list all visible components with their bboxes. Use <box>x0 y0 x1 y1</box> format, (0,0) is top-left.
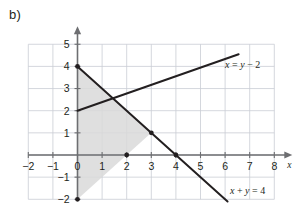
x-tick-label: 2 <box>124 160 130 172</box>
data-point-marker <box>75 64 80 69</box>
y-tick-label: −2 <box>58 193 70 205</box>
data-point-marker <box>149 130 154 135</box>
data-point-marker <box>124 153 129 158</box>
y-tick-labels: −2−112345 <box>58 38 70 205</box>
x-tick-labels: −2−1012345678 <box>22 160 277 172</box>
line-equation-label: x = y − 2 <box>224 59 260 70</box>
x-tick-label: 5 <box>198 160 204 172</box>
y-tick-label: 4 <box>64 60 70 72</box>
part-label: b) <box>9 7 21 22</box>
y-tick-label: 1 <box>64 127 70 139</box>
plotted-line <box>78 54 239 110</box>
x-tick-label: 7 <box>247 160 253 172</box>
data-point-marker <box>75 197 80 202</box>
y-tick-label: 5 <box>64 38 70 50</box>
y-tick-label: 3 <box>64 82 70 94</box>
x-tick-label: 3 <box>148 160 154 172</box>
x-axis-arrow <box>284 151 292 158</box>
x-tick-label: −1 <box>47 160 59 172</box>
x-axis-label: x <box>286 160 292 170</box>
y-axis-arrow <box>74 26 81 34</box>
line-equation-label: x + y = 4 <box>229 185 265 196</box>
equation-labels: x = y − 2x + y = 4 <box>224 59 265 197</box>
y-tick-label: 2 <box>64 105 70 117</box>
x-tick-label: 8 <box>271 160 277 172</box>
x-tick-label: 1 <box>99 160 105 172</box>
x-tick-label: −2 <box>22 160 34 172</box>
x-tick-label: 4 <box>173 160 179 172</box>
shaded-region <box>78 66 152 199</box>
y-tick-label: −1 <box>58 171 70 183</box>
x-tick-label: 6 <box>222 160 228 172</box>
x-tick-label: 0 <box>75 160 81 172</box>
graph-figure: b) −2−1012345678 −2−112345 x = y − 2x + … <box>0 0 300 222</box>
coordinate-plane: −2−1012345678 −2−112345 x = y − 2x + y =… <box>0 0 300 222</box>
data-point-marker <box>174 153 179 158</box>
